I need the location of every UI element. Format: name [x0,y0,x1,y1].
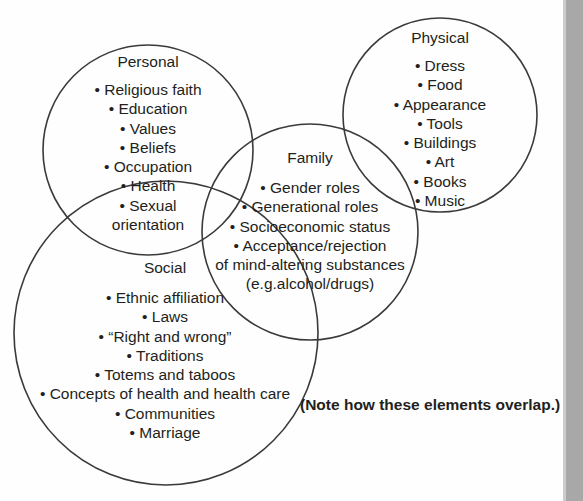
overlap-note: (Note how these elements overlap.) [300,396,562,414]
list-item: • Tools [352,114,528,133]
cluster-family-title: Family [196,148,424,167]
list-item: • Totems and taboos [8,365,322,384]
list-item: • Generational roles [196,197,424,216]
list-item: • Acceptance/rejection [196,236,424,255]
list-item: • Gender roles [196,178,424,197]
cluster-physical-title: Physical [352,28,528,47]
list-item: • Appearance [352,95,528,114]
cluster-social-title: Social [8,258,322,277]
list-item: • Traditions [8,346,322,365]
cluster-social-list: • Ethnic affiliation • Laws • “Right and… [8,288,322,442]
list-item: • Concepts of health and health care [8,384,322,403]
list-item: • Religious faith [48,80,248,99]
list-item: • Food [352,75,528,94]
page-edge-gray-bar [563,0,583,501]
list-item: • Marriage [8,423,322,442]
page-edge-gray-bar-highlight [563,0,566,501]
list-item: • Values [48,119,248,138]
list-item: • Socioeconomic status [196,217,424,236]
list-item: • Dress [352,56,528,75]
list-item: • “Right and wrong” [8,327,322,346]
cluster-social: Social • Ethnic affiliation • Laws • “Ri… [8,258,322,442]
list-item: • Laws [8,307,322,326]
list-item: • Communities [8,404,322,423]
venn-diagram-page: Personal • Religious faith • Education •… [0,0,583,501]
cluster-personal-title: Personal [48,52,248,71]
list-item: • Ethnic affiliation [8,288,322,307]
list-item: • Education [48,99,248,118]
